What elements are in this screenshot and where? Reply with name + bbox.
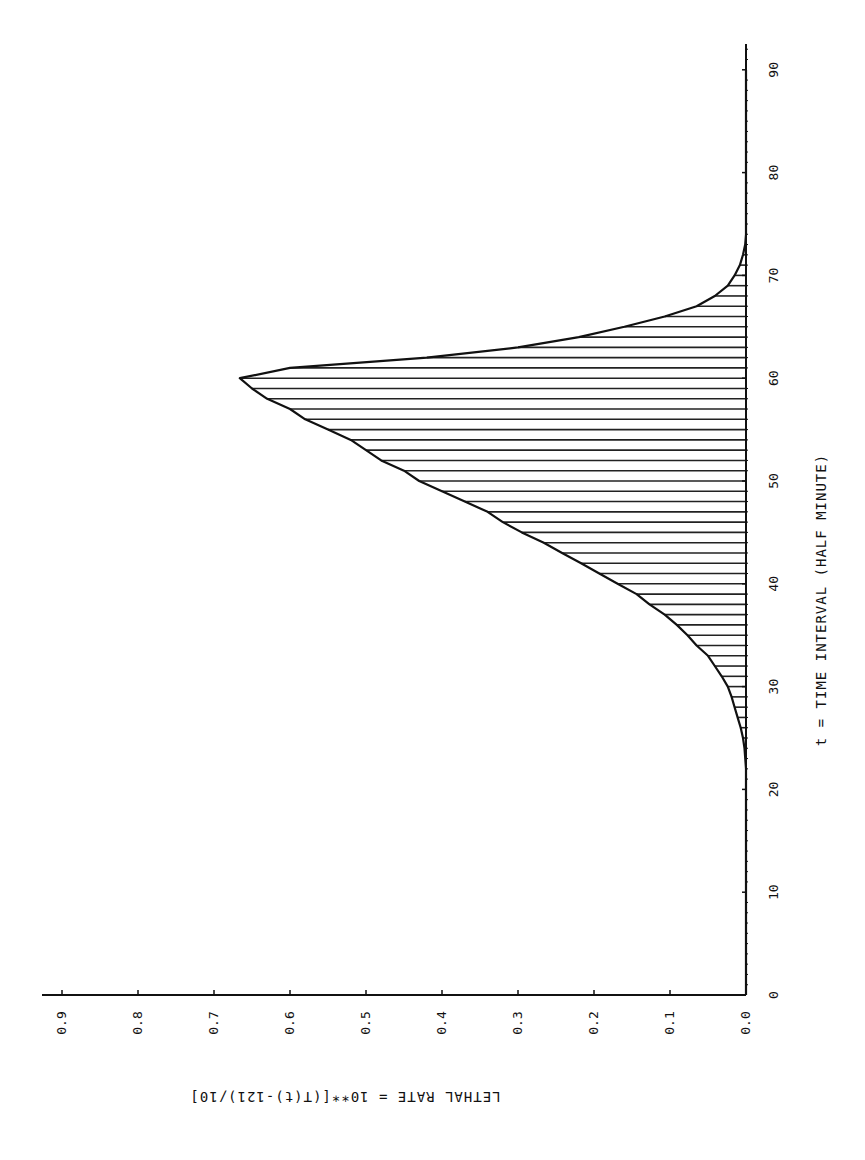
lethal-rate-axis-title: LETHAL RATE = 10**[(T(t)-121)/10]: [189, 1089, 500, 1105]
rate-tick-label: 0.6: [282, 1011, 297, 1034]
time-tick-label: 50: [766, 473, 781, 489]
rate-tick-label: 0.8: [130, 1011, 145, 1034]
rate-tick-label: 0.0: [738, 1011, 753, 1034]
time-tick-label: 70: [766, 268, 781, 284]
time-tick-label: 60: [766, 370, 781, 386]
lethal-rate-chart: 0102030405060708090 0.00.10.20.30.40.50.…: [0, 0, 865, 1160]
rate-tick-label: 0.5: [358, 1011, 373, 1034]
time-tick-label: 20: [766, 782, 781, 798]
rate-tick-label: 0.2: [586, 1011, 601, 1034]
rate-tick-label: 0.3: [510, 1011, 525, 1034]
time-tick-label: 90: [766, 62, 781, 78]
time-tick-label: 80: [766, 165, 781, 181]
time-axis-ticks: 0102030405060708090: [742, 49, 781, 999]
rate-tick-label: 0.4: [434, 1011, 449, 1035]
axes: [42, 44, 746, 995]
rate-tick-label: 0.9: [54, 1011, 69, 1034]
rate-tick-label: 0.1: [662, 1011, 677, 1034]
time-tick-label: 10: [766, 884, 781, 900]
hatch-fill: [240, 255, 746, 738]
time-tick-label: 40: [766, 576, 781, 592]
time-axis-title: t = TIME INTERVAL (HALF MINUTE): [813, 454, 829, 746]
rate-tick-label: 0.7: [206, 1011, 221, 1034]
time-tick-label: 0: [766, 991, 781, 999]
rate-axis-ticks: 0.00.10.20.30.40.50.60.70.80.9: [54, 990, 753, 1035]
time-tick-label: 30: [766, 679, 781, 695]
